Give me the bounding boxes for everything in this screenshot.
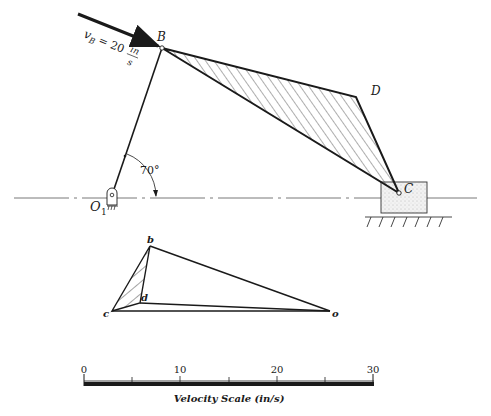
pin-joint-b: [160, 46, 164, 50]
label-d: D: [370, 84, 381, 98]
scale-tick-20: 20: [271, 364, 284, 375]
label-o-small: o: [332, 308, 339, 319]
scale-tick-10: 10: [174, 364, 187, 375]
scale-tick-30: 30: [367, 364, 380, 375]
svg-text:s: s: [126, 57, 134, 68]
velocity-label-vb: v B = 20 in s: [79, 26, 142, 69]
svg-text:= 20: = 20: [97, 34, 127, 56]
scale-title: Velocity Scale (in/s): [174, 393, 285, 404]
ground-pivot-o1: [107, 188, 118, 210]
label-o1-sub: 1: [101, 207, 107, 217]
svg-text:in: in: [129, 44, 141, 57]
coupler-link-bdc: [162, 48, 399, 193]
label-b-small: b: [147, 234, 154, 245]
vector-ob: [150, 246, 330, 311]
label-c-small: c: [103, 308, 109, 319]
velocity-scale: 0 10 20 30 Velocity Scale (in/s): [81, 364, 380, 404]
pin-joint-c: [397, 191, 401, 195]
ground-hatching: [365, 217, 452, 227]
kinematic-diagram: B D C O 1 70° v B = 20 in s b c d o 0 10…: [0, 0, 491, 416]
velocity-polygon: b c d o: [103, 234, 339, 319]
label-d-small: d: [141, 292, 148, 303]
label-b: B: [156, 30, 166, 44]
scale-tick-0: 0: [81, 364, 87, 375]
vector-od: [140, 303, 330, 311]
angle-label: 70°: [140, 164, 160, 177]
label-c: C: [404, 182, 413, 196]
label-o1: O: [90, 199, 101, 214]
